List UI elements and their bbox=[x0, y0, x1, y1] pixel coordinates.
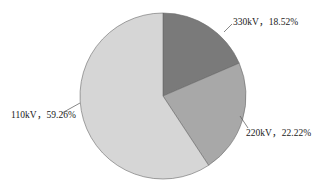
leader-line-330kv bbox=[224, 24, 232, 32]
slice-label-330kv: 330kV，18.52% bbox=[233, 17, 298, 28]
pie-chart bbox=[0, 0, 320, 188]
slice-label-110kv: 110kV，59.26% bbox=[11, 110, 76, 121]
pie-slices bbox=[80, 13, 246, 179]
slice-label-220kv: 220kV，22.22% bbox=[246, 128, 311, 139]
